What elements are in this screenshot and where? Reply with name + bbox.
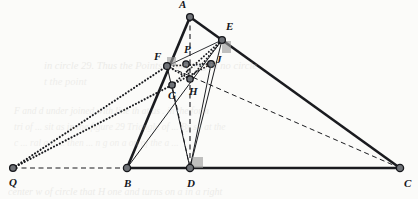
point-D	[186, 164, 193, 171]
point-Q	[10, 165, 17, 172]
point-label-E: E	[226, 21, 233, 32]
point-H	[187, 76, 193, 82]
segment-AB	[127, 17, 190, 168]
point-label-B: B	[124, 178, 131, 189]
point-label-J: J	[216, 54, 222, 65]
segment-QG	[13, 85, 172, 168]
point-label-C: C	[404, 178, 411, 189]
segment-QF	[13, 66, 167, 168]
figure-canvas	[0, 0, 418, 199]
point-label-A: A	[179, 0, 186, 10]
geometry-figure: in circle 29. Thus the Points ... mo tin…	[0, 0, 418, 199]
segment-layer	[13, 17, 400, 168]
point-J	[208, 61, 215, 68]
point-layer	[10, 14, 404, 172]
point-label-F: F	[154, 51, 161, 62]
point-label-H: H	[189, 86, 198, 97]
point-P	[183, 61, 189, 67]
point-C	[396, 164, 403, 171]
point-A	[187, 14, 194, 21]
point-label-D: D	[187, 178, 195, 189]
point-G	[169, 82, 175, 88]
point-E	[219, 37, 226, 44]
point-label-Q: Q	[9, 177, 17, 188]
segment-CF	[167, 66, 400, 168]
point-B	[123, 164, 130, 171]
point-label-P: P	[184, 44, 191, 55]
point-label-G: G	[168, 90, 176, 101]
point-F	[164, 63, 171, 70]
